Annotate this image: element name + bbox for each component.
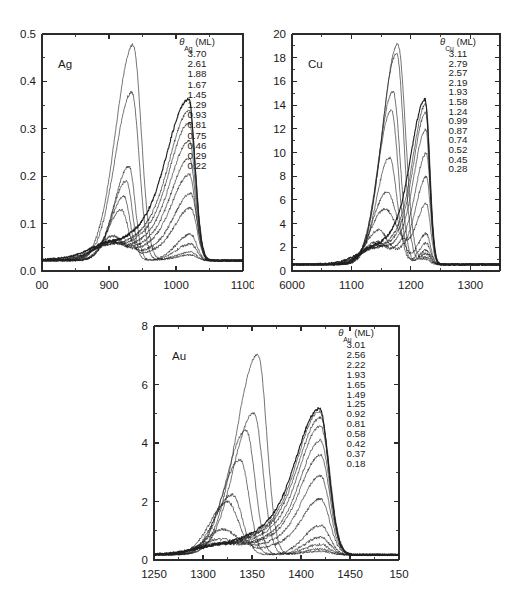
spectrum-trace — [154, 454, 399, 556]
y-tick-label: 0.4 — [20, 75, 37, 87]
spectra-figure: 0.00.10.20.30.40.50090010001100AgθAg (ML… — [0, 0, 508, 593]
panel-species-label: Cu — [308, 58, 323, 70]
x-tick-label: 1250 — [141, 568, 167, 580]
y-tick-label: 0.2 — [20, 170, 36, 182]
spectrum-trace — [154, 459, 399, 556]
y-tick-label: 2 — [142, 496, 148, 508]
y-tick-label: 0.1 — [20, 218, 36, 230]
spectrum-trace — [292, 103, 500, 265]
y-tick-label: 16 — [273, 75, 286, 87]
spectrum-trace — [292, 192, 500, 266]
y-tick-label: 8 — [280, 170, 286, 182]
y-tick-label: 0 — [142, 554, 148, 566]
x-tick-label: 1450 — [337, 568, 363, 580]
spectra-traces — [42, 44, 243, 262]
spectrum-trace — [42, 110, 243, 261]
panel-species-label: Ag — [58, 58, 72, 70]
y-tick-label: 6 — [280, 194, 286, 206]
y-tick-label: 0.5 — [20, 28, 36, 40]
y-tick-label: 0.0 — [20, 265, 36, 277]
y-tick-label: 2 — [280, 241, 286, 253]
spectrum-trace — [42, 44, 243, 262]
x-tick-label: 6000 — [279, 279, 305, 291]
y-tick-label: 12 — [273, 123, 286, 135]
x-tick-label: 1000 — [163, 279, 189, 291]
plot-ag: 0.00.10.20.30.40.50090010001100AgθAg (ML… — [0, 8, 254, 300]
axis-lines — [292, 34, 500, 271]
spectrum-trace — [42, 122, 243, 261]
y-tick-label: 0 — [280, 265, 286, 277]
legend-value: 0.18 — [346, 458, 366, 469]
y-tick-label: 0.3 — [20, 123, 36, 135]
x-tick-label: 1100 — [231, 279, 254, 291]
y-tick-label: 20 — [273, 28, 286, 40]
plot-frame — [292, 34, 500, 271]
y-tick-label: 4 — [280, 218, 287, 230]
x-tick-label: 1300 — [190, 568, 216, 580]
y-tick-label: 4 — [142, 437, 149, 449]
x-tick-label: 1400 — [288, 568, 314, 580]
spectrum-trace — [292, 43, 500, 265]
panel-au: 0246812501300135014001450150AuθAu (ML)3.… — [124, 306, 414, 593]
y-tick-label: 10 — [273, 147, 286, 159]
y-tick-label: 18 — [273, 52, 286, 64]
y-tick-label: 6 — [142, 379, 148, 391]
x-tick-label: 900 — [99, 279, 118, 291]
plot-au: 0246812501300135014001450150AuθAu (ML)3.… — [124, 306, 414, 593]
x-tick-label: 00 — [36, 279, 49, 291]
legend-value: 0.22 — [187, 160, 206, 171]
spectrum-trace — [42, 91, 243, 261]
spectrum-trace — [154, 493, 399, 555]
y-tick-label: 8 — [142, 320, 148, 332]
spectra-traces — [292, 43, 500, 265]
x-tick-label: 150 — [389, 568, 408, 580]
x-tick-label: 1300 — [457, 279, 483, 291]
legend-value: 0.28 — [448, 163, 468, 174]
spectrum-trace — [42, 174, 243, 262]
plot-cu: 024681012141618206000110012001300CuθCu (… — [254, 8, 508, 300]
y-tick-label: 14 — [273, 99, 286, 111]
spectrum-trace — [292, 129, 500, 266]
spectrum-trace — [292, 98, 500, 265]
x-tick-label: 1350 — [239, 568, 265, 580]
x-tick-label: 1100 — [339, 279, 364, 291]
spectrum-trace — [292, 53, 500, 265]
panel-ag: 0.00.10.20.30.40.50090010001100AgθAg (ML… — [0, 8, 254, 300]
panel-cu: 024681012141618206000110012001300CuθCu (… — [254, 8, 508, 300]
x-tick-label: 1200 — [398, 279, 424, 291]
panel-species-label: Au — [172, 350, 186, 362]
